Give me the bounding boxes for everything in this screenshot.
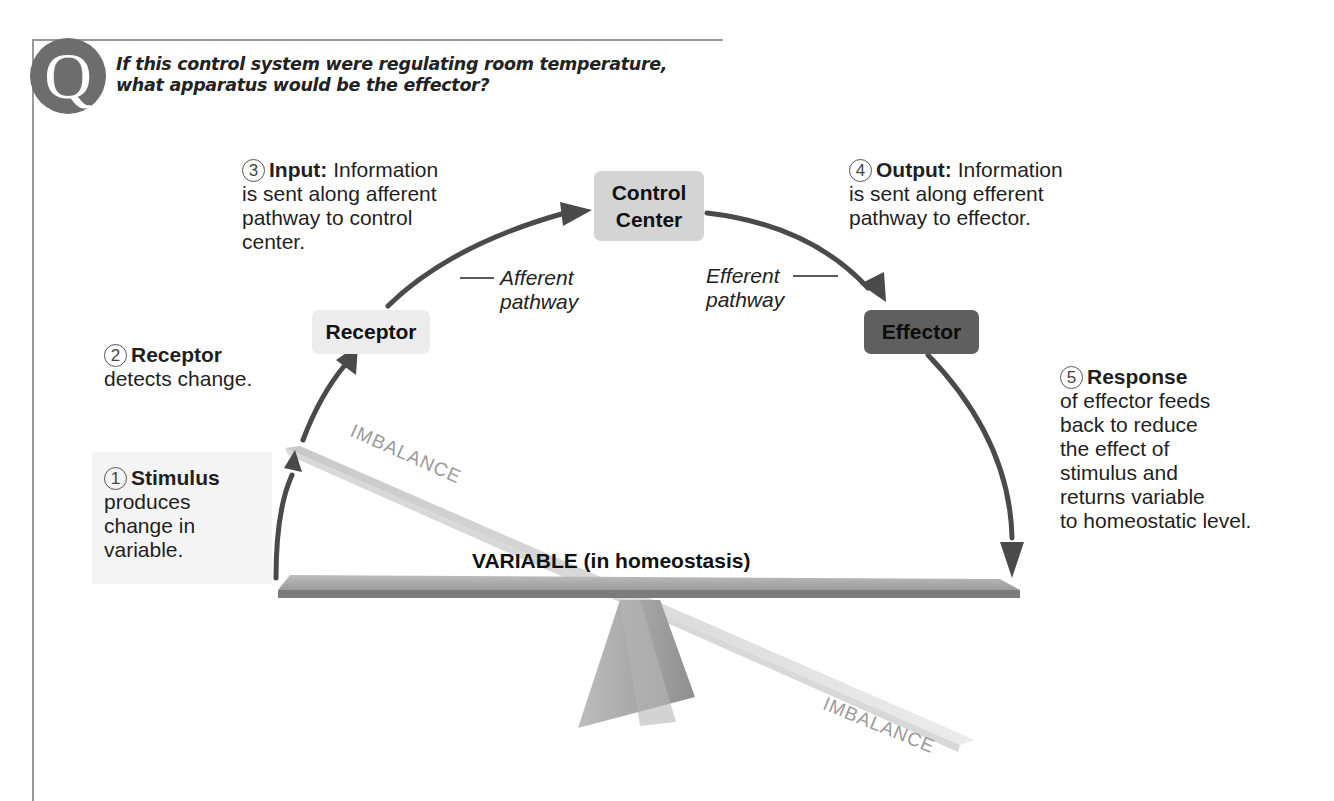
step-5-response: 5Response of effector feeds back to redu…: [1060, 365, 1251, 533]
step-4-output: 4Output: Information is sent along effer…: [849, 158, 1063, 230]
efferent-pathway-label: Efferent pathway: [706, 264, 784, 312]
effector-node: Effector: [864, 310, 979, 354]
step-4-line: pathway to effector.: [849, 206, 1063, 230]
step-3-title-rest: Information: [333, 158, 438, 181]
step-1-line: produces: [104, 490, 220, 514]
afferent-pathway-label: Afferent pathway: [500, 266, 578, 314]
step-number-1-icon: 1: [104, 467, 127, 490]
arrowhead-response-icon: [1000, 542, 1024, 578]
step-4-line: is sent along efferent: [849, 182, 1063, 206]
control-center-node: Control Center: [594, 171, 704, 241]
step-2-receptor: 2Receptor detects change.: [104, 343, 252, 391]
step-5-line: returns variable: [1060, 485, 1251, 509]
step-1-line: change in: [104, 514, 220, 538]
step-4-title: Output:: [876, 158, 952, 181]
afferent-line-1: Afferent: [500, 266, 578, 290]
feedback-arrows: [276, 213, 1012, 578]
step-number-5-icon: 5: [1060, 366, 1083, 389]
step-2-title: Receptor: [131, 343, 222, 366]
homeostasis-plank: [278, 575, 1020, 598]
step-number-3-icon: 3: [242, 159, 265, 182]
step-3-title: Input:: [269, 158, 327, 181]
step-4-title-rest: Information: [958, 158, 1063, 181]
response-arrow: [928, 355, 1012, 538]
step-3-input: 3Input: Information is sent along affere…: [242, 158, 438, 254]
arrowheads: [284, 202, 1024, 578]
control-center-line-2: Center: [594, 206, 704, 233]
receptor-node: Receptor: [312, 310, 430, 354]
efferent-line-2: pathway: [706, 288, 784, 312]
afferent-line-2: pathway: [500, 290, 578, 314]
step-5-line: of effector feeds: [1060, 389, 1251, 413]
step-1-line: variable.: [104, 538, 220, 562]
variable-label: VARIABLE (in homeostasis): [472, 549, 750, 573]
step-5-line: stimulus and: [1060, 461, 1251, 485]
step-2-line: detects change.: [104, 367, 252, 391]
efferent-line-1: Efferent: [706, 264, 784, 288]
step-5-title: Response: [1087, 365, 1187, 388]
step-3-line: center.: [242, 230, 438, 254]
receptor-arrow: [303, 365, 345, 440]
step-5-line: to homeostatic level.: [1060, 509, 1251, 533]
control-center-line-1: Control: [594, 179, 704, 206]
step-5-line: back to reduce: [1060, 413, 1251, 437]
step-3-line: pathway to control: [242, 206, 438, 230]
arrowhead-control-icon: [560, 202, 592, 226]
step-1-stimulus: 1Stimulus produces change in variable.: [104, 466, 220, 562]
step-1-title: Stimulus: [131, 466, 220, 489]
step-5-line: the effect of: [1060, 437, 1251, 461]
step-number-2-icon: 2: [104, 344, 127, 367]
stimulus-arrow: [276, 475, 292, 578]
step-3-line: is sent along afferent: [242, 182, 438, 206]
step-number-4-icon: 4: [849, 159, 872, 182]
